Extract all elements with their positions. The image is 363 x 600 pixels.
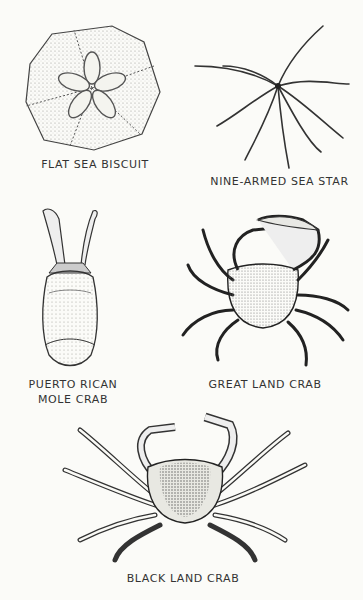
black-land-crab-illustration [60,405,310,565]
mole-crab-label-line-1: PUERTO RICAN [18,377,128,392]
great-land-crab-illustration [178,210,353,370]
black-land-crab-label: BLACK LAND CRAB [118,571,248,586]
great-land-crab-label: GREAT LAND CRAB [200,377,330,392]
flat-sea-biscuit-label: FLAT SEA BISCUIT [40,157,150,172]
nine-armed-sea-star-label: NINE-ARMED SEA STAR [202,174,357,189]
flat-sea-biscuit-illustration [22,22,162,152]
nine-armed-sea-star-illustration [193,22,353,172]
puerto-rican-mole-crab-illustration [35,205,105,370]
